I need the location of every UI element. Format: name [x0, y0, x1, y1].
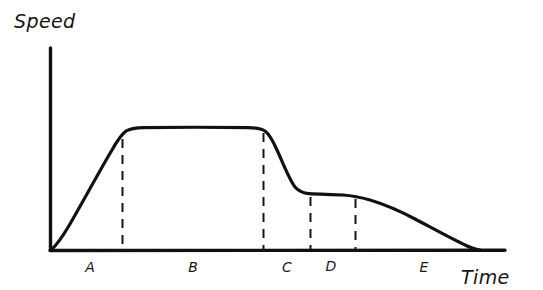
segment-label-d: D — [326, 258, 337, 274]
x-axis-line — [50, 250, 505, 251]
chart-background — [0, 0, 543, 290]
speed-time-graph: Speed A B C D E Time — [0, 0, 543, 290]
segment-label-e: E — [420, 259, 429, 275]
segment-label-c: C — [282, 259, 292, 275]
y-axis-title: Speed — [14, 10, 76, 32]
x-axis-title: Time — [461, 266, 510, 288]
segment-label-a: A — [84, 259, 95, 275]
segment-label-b: B — [188, 259, 198, 275]
